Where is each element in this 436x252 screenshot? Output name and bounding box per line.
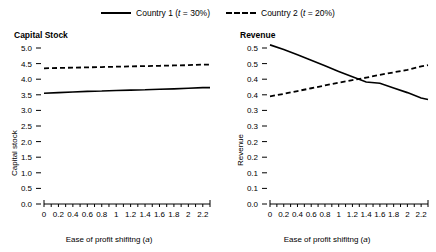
chart-canvas-revenue: 0.00.10.10.20.20.30.30.40.40.50.500.20.4…	[218, 26, 436, 252]
legend-label-country-2: Country 2 (t = 20%)	[261, 8, 335, 18]
chart-panel-capital-stock: Capital Stock Capital stock 0.00.51.01.5…	[0, 26, 218, 252]
x-tick-label: 2.2	[416, 210, 428, 219]
x-axis-title-revenue: Ease of profit shifitng (a)	[218, 235, 436, 244]
x-tick-label: 1.6	[374, 210, 386, 219]
x-tick-label: 0	[42, 210, 47, 219]
chart-panel-revenue: Revenue Revenue 0.00.10.10.20.20.30.30.4…	[218, 26, 436, 252]
legend-swatch-solid-line	[101, 12, 131, 15]
figure-root: Country 1 (t = 30%) Country 2 (t = 20%) …	[0, 0, 436, 252]
x-tick-label: 0.8	[319, 210, 331, 219]
x-tick-label: 0.2	[278, 210, 290, 219]
y-tick-label: 4.0	[21, 75, 33, 84]
y-tick-label: 3.0	[21, 106, 33, 115]
x-tick-label: 2	[186, 210, 191, 219]
y-tick-label: 0.5	[247, 60, 259, 69]
y-tick-label: 3.5	[21, 91, 33, 100]
x-tick-label: 1.6	[154, 210, 166, 219]
y-tick-label: 0.3	[247, 106, 259, 115]
x-tick-label: 0.8	[96, 210, 108, 219]
y-tick-label: 4.5	[21, 60, 33, 69]
legend-label-country-1: Country 1 (t = 30%)	[136, 8, 210, 18]
x-tick-label: 1.8	[168, 210, 180, 219]
y-tick-label: 0.4	[247, 75, 259, 84]
y-tick-label: 5.0	[21, 44, 33, 53]
y-tick-label: 0.0	[21, 200, 33, 209]
x-tick-label: 1	[114, 210, 119, 219]
y-tick-label: 0.1	[247, 169, 259, 178]
x-tick-label: 1.2	[347, 210, 359, 219]
x-tick-label: 1.4	[139, 210, 151, 219]
chart-canvas-capital-stock: 0.00.51.01.52.02.53.03.54.04.55.000.20.4…	[0, 26, 218, 252]
x-axis-title-capital-stock: Ease of profit shifitng (a)	[0, 235, 218, 244]
y-tick-label: 0.5	[21, 184, 33, 193]
data-series-solid	[44, 88, 210, 94]
x-tick-label: 0	[268, 210, 273, 219]
x-tick-label: 0.4	[67, 210, 79, 219]
x-tick-label: 1.8	[388, 210, 400, 219]
y-tick-label: 2.5	[21, 122, 33, 131]
y-tick-label: 0.0	[247, 200, 259, 209]
x-tick-label: 1.2	[125, 210, 137, 219]
y-tick-label: 2.0	[21, 138, 33, 147]
legend-swatch-dashed-line	[226, 12, 256, 14]
legend-entry-country-2: Country 2 (t = 20%)	[226, 8, 335, 18]
y-tick-label: 1.0	[21, 169, 33, 178]
x-tick-label: 0.4	[292, 210, 304, 219]
y-tick-label: 0.4	[247, 91, 259, 100]
y-tick-label: 0.2	[247, 138, 259, 147]
legend-entry-country-1: Country 1 (t = 30%)	[101, 8, 210, 18]
x-tick-label: 1.4	[361, 210, 373, 219]
chart-legend: Country 1 (t = 30%) Country 2 (t = 20%)	[0, 8, 436, 18]
x-tick-label: 2.2	[197, 210, 209, 219]
y-tick-label: 0.5	[247, 44, 259, 53]
x-tick-label: 0.6	[82, 210, 94, 219]
x-tick-label: 1	[336, 210, 341, 219]
data-series-dashed	[44, 65, 210, 69]
x-tick-label: 2	[405, 210, 410, 219]
y-tick-label: 1.5	[21, 153, 33, 162]
x-tick-label: 0.2	[53, 210, 65, 219]
y-tick-label: 0.2	[247, 153, 259, 162]
y-tick-label: 0.3	[247, 122, 259, 131]
x-tick-label: 0.6	[306, 210, 318, 219]
y-tick-label: 0.1	[247, 184, 259, 193]
